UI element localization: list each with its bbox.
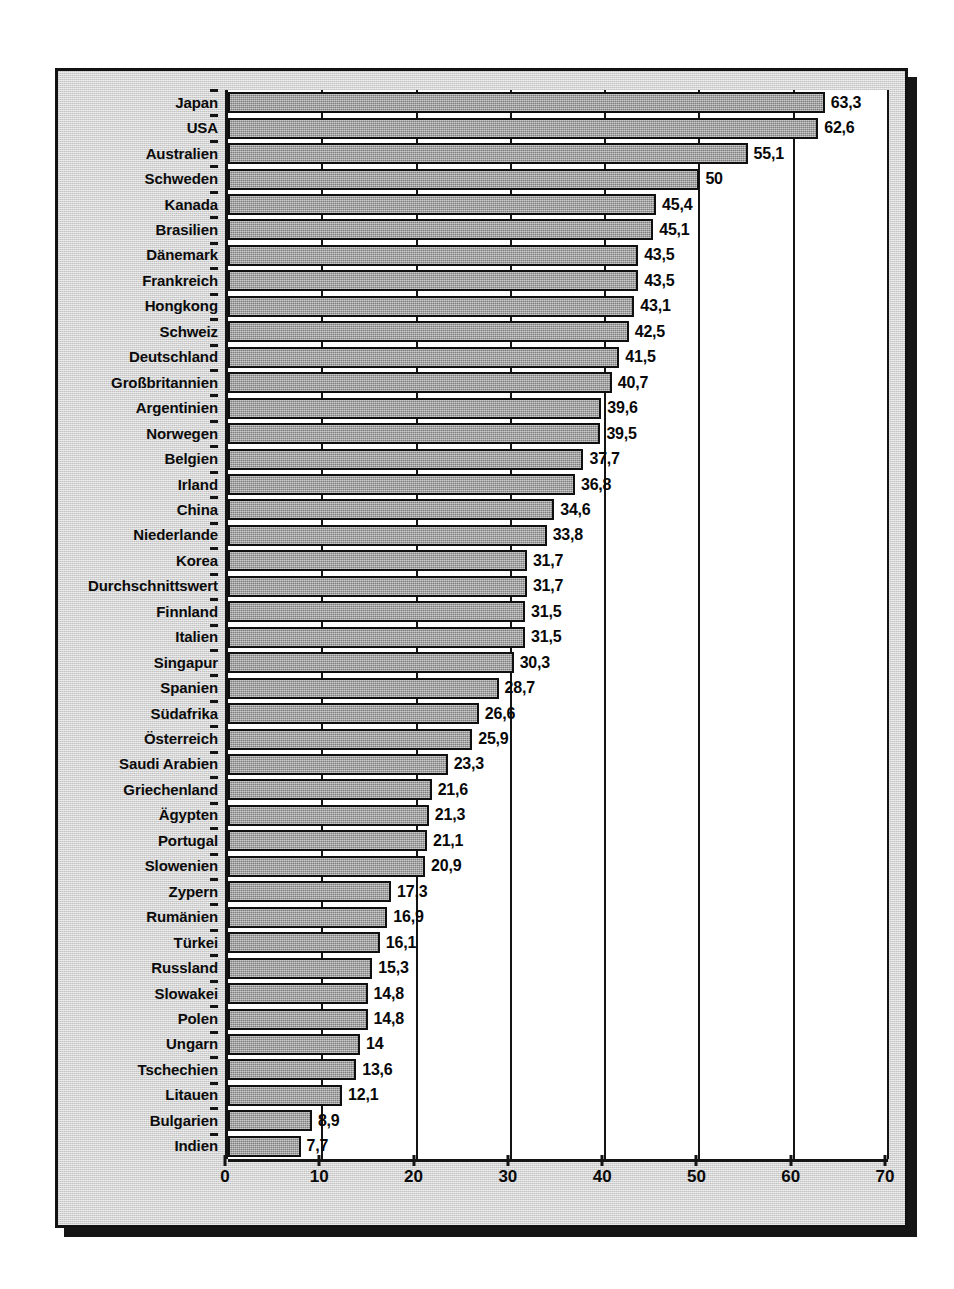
category-label: Bulgarien — [18, 1112, 218, 1129]
x-axis-tick — [506, 1155, 509, 1166]
y-axis-tick — [210, 1082, 218, 1085]
bar-row: 55,1 — [228, 143, 888, 164]
bar-row: 17,3 — [228, 881, 888, 902]
category-label: Italien — [18, 628, 218, 645]
bar-row: 25,9 — [228, 729, 888, 750]
y-axis-tick — [210, 725, 218, 728]
bar — [228, 1085, 342, 1106]
bar-row: 43,5 — [228, 270, 888, 291]
x-axis-tick — [224, 1155, 227, 1166]
bar — [228, 881, 391, 902]
category-label: Kanada — [18, 196, 218, 213]
y-axis-tick — [210, 522, 218, 525]
bar-value-label: 55,1 — [754, 145, 784, 163]
bar-value-label: 30,3 — [520, 654, 550, 672]
y-axis-tick — [210, 878, 218, 881]
bar-value-label: 39,5 — [606, 425, 636, 443]
bar-value-label: 34,6 — [560, 501, 590, 519]
category-label: Niederlande — [18, 526, 218, 543]
bar-row: 43,1 — [228, 296, 888, 317]
bar-value-label: 13,6 — [362, 1061, 392, 1079]
category-label: Großbritannien — [18, 374, 218, 391]
bar-row: 12,1 — [228, 1085, 888, 1106]
category-label: Portugal — [18, 832, 218, 849]
y-axis-tick — [210, 165, 218, 168]
chart-panel: JapanUSAAustralienSchwedenKanadaBrasilie… — [55, 68, 908, 1228]
x-axis-tick-label: 40 — [593, 1167, 612, 1187]
category-label: Ungarn — [18, 1035, 218, 1052]
category-label: Slowakei — [18, 985, 218, 1002]
category-label: Litauen — [18, 1086, 218, 1103]
bar — [228, 652, 514, 673]
category-label: Finnland — [18, 603, 218, 620]
category-label: Deutschland — [18, 348, 218, 365]
category-label: USA — [18, 119, 218, 136]
bar-value-label: 20,9 — [431, 857, 461, 875]
y-axis-tick — [210, 394, 218, 397]
bar — [228, 729, 472, 750]
y-axis-tick — [210, 700, 218, 703]
x-axis-tick-label: 30 — [498, 1167, 517, 1187]
y-axis-tick — [210, 318, 218, 321]
bar — [228, 474, 575, 495]
y-axis-tick — [210, 89, 218, 92]
y-axis-tick — [210, 1031, 218, 1034]
x-axis-tick-label: 50 — [687, 1167, 706, 1187]
bar-row: 28,7 — [228, 678, 888, 699]
bar-row: 21,3 — [228, 805, 888, 826]
bar-row: 14,8 — [228, 983, 888, 1004]
y-axis-tick — [210, 827, 218, 830]
x-axis-tick-labels: 010203040506070 — [225, 1167, 885, 1197]
category-label: Ägypten — [18, 806, 218, 823]
x-axis-tick — [601, 1155, 604, 1166]
bar-value-label: 8,9 — [318, 1112, 340, 1130]
bar-row: 30,3 — [228, 652, 888, 673]
y-axis-tick — [210, 496, 218, 499]
category-label: Singapur — [18, 654, 218, 671]
bar — [228, 907, 387, 928]
bar-row: 21,1 — [228, 830, 888, 851]
bar-row: 16,1 — [228, 932, 888, 953]
category-label: Russland — [18, 959, 218, 976]
category-label: Österreich — [18, 730, 218, 747]
category-axis: JapanUSAAustralienSchwedenKanadaBrasilie… — [58, 90, 218, 1159]
bar-value-label: 15,3 — [378, 959, 408, 977]
y-axis-tick — [210, 903, 218, 906]
bar-row: 31,7 — [228, 550, 888, 571]
bar-value-label: 31,5 — [531, 628, 561, 646]
category-label: Japan — [18, 94, 218, 111]
bar-value-label: 45,1 — [659, 221, 689, 239]
bar — [228, 703, 479, 724]
y-axis-tick — [210, 114, 218, 117]
bar-value-label: 17,3 — [397, 883, 427, 901]
bar-value-label: 21,1 — [433, 832, 463, 850]
bar-value-label: 26,6 — [485, 705, 515, 723]
category-label: Griechenland — [18, 781, 218, 798]
bar-value-label: 31,7 — [533, 552, 563, 570]
category-label: Schweiz — [18, 323, 218, 340]
bar — [228, 92, 825, 113]
category-label: Durchschnittswert — [18, 577, 218, 594]
bar — [228, 779, 432, 800]
bar — [228, 423, 600, 444]
bar — [228, 932, 380, 953]
bar — [228, 830, 427, 851]
x-axis-tick-label: 60 — [781, 1167, 800, 1187]
y-axis-tick — [210, 776, 218, 779]
x-axis-tick — [695, 1155, 698, 1166]
bar-value-label: 41,5 — [625, 348, 655, 366]
bar-row: 31,5 — [228, 627, 888, 648]
bar — [228, 856, 425, 877]
x-axis-tick-label: 20 — [404, 1167, 423, 1187]
category-label: Brasilien — [18, 221, 218, 238]
y-axis-tick — [210, 445, 218, 448]
category-label: Schweden — [18, 170, 218, 187]
bar — [228, 1034, 360, 1055]
x-axis-tick-label: 10 — [310, 1167, 329, 1187]
y-axis-tick — [210, 242, 218, 245]
x-axis-tick — [412, 1155, 415, 1166]
bar-value-label: 43,1 — [640, 297, 670, 315]
y-axis-tick — [210, 573, 218, 576]
y-axis-tick — [210, 1005, 218, 1008]
bar — [228, 1009, 368, 1030]
